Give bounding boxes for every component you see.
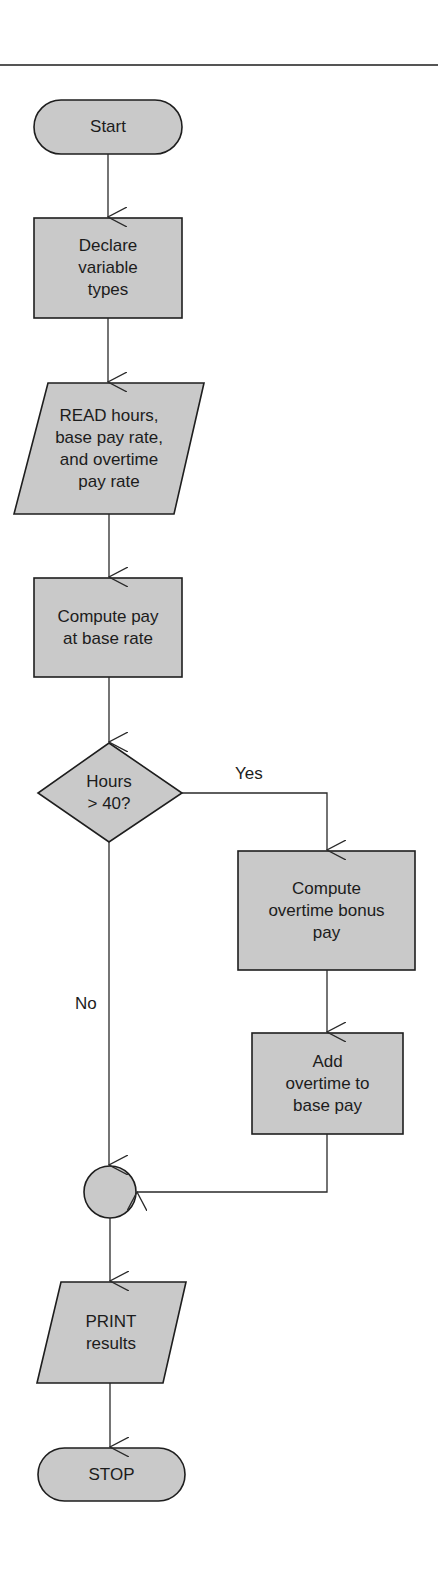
arrow-add-to-connector: [137, 1134, 327, 1192]
arrow-yes-branch: [182, 793, 327, 850]
no-branch-label: No: [75, 994, 97, 1014]
connector-circle-shape: [84, 1166, 136, 1218]
start-terminal: Start: [34, 100, 182, 154]
hours-decision: Hours > 40?: [50, 755, 168, 831]
declare-variables-step: Declare variable types: [34, 218, 182, 318]
add-overtime-step: Add overtime to base pay: [252, 1033, 403, 1134]
stop-terminal: STOP: [38, 1448, 185, 1501]
compute-base-pay-step: Compute pay at base rate: [34, 578, 182, 677]
print-results-step: PRINT results: [48, 1282, 174, 1383]
read-input-step: READ hours, base pay rate, and overtime …: [30, 383, 188, 514]
yes-branch-label: Yes: [235, 764, 263, 784]
compute-overtime-step: Compute overtime bonus pay: [238, 851, 415, 970]
